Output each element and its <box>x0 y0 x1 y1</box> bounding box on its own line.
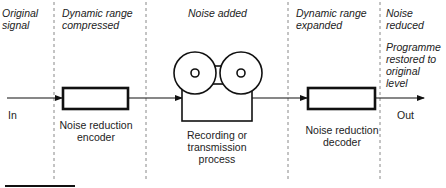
stage-label-noise-reduced: Noise reduced <box>386 7 424 31</box>
left-reel-hub <box>191 69 199 77</box>
tape-recorder-icon <box>174 52 262 121</box>
stage-label-expanded: Dynamic range expanded <box>296 7 367 31</box>
input-label: In <box>8 109 17 121</box>
decoder-label: Noise reduction decoder <box>296 124 388 148</box>
stage-label-compressed: Dynamic range compressed <box>62 7 133 31</box>
encoder-label: Noise reduction encoder <box>50 119 142 143</box>
recorder-label: Recording or transmission process <box>172 129 262 165</box>
right-reel-hub <box>237 69 245 77</box>
decoder-block <box>308 88 375 109</box>
programme-restored-note: Programme restored to original level <box>386 41 441 89</box>
encoder-block <box>63 88 128 109</box>
stage-label-original: Original signal <box>2 7 38 31</box>
output-label: Out <box>397 109 414 121</box>
stage-label-noise-added: Noise added <box>188 7 247 19</box>
